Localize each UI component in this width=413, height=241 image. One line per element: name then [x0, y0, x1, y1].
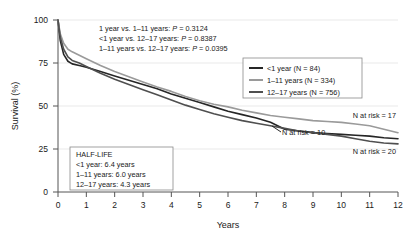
pvalue-text-3: 1–11 years vs. 12–17 years: [99, 44, 192, 53]
x-tick-label: 9 [311, 200, 316, 210]
legend: <1 year (N = 84) 1–11 years (N = 334) 12… [243, 58, 362, 98]
x-tick-label: 11 [365, 200, 374, 210]
y-axis-title: Survival (%) [10, 82, 20, 131]
x-tick-label: 0 [56, 200, 61, 210]
pvalue-text-2: <1 year vs. 12–17 years: [99, 34, 181, 43]
half-life-title: HALF-LIFE [76, 150, 113, 159]
pvalue-line-3: 1–11 years vs. 12–17 years: P = 0.0395 [99, 44, 228, 53]
x-tick-label: 10 [337, 200, 347, 210]
pvalue-line-2: <1 year vs. 12–17 years: P = 0.8387 [99, 34, 217, 43]
y-tick-label: 25 [39, 144, 49, 154]
half-life-box: HALF-LIFE <1 year: 6.4 years 1–11 years:… [70, 147, 173, 190]
legend-label: 12–17 years (N = 756) [267, 88, 340, 97]
x-tick-label: 12 [393, 200, 403, 210]
pvalue-value-2: = 0.8387 [186, 34, 217, 43]
x-tick-label: 2 [112, 200, 117, 210]
y-tick-label: 0 [43, 187, 48, 197]
y-tick-label: 100 [34, 15, 48, 25]
pvalue-line-1: 1 year vs. 1–11 years: P = 0.3124 [99, 24, 208, 33]
chart-svg: 100 75 50 25 0 Survival (%) 0 1 [0, 0, 413, 241]
x-tick-label: 5 [197, 200, 202, 210]
pvalue-text-1: 1 year vs. 1–11 years: [99, 24, 172, 33]
x-tick-label: 8 [282, 200, 287, 210]
x-tick-label: 4 [169, 200, 174, 210]
y-tick-label: 50 [39, 101, 49, 111]
legend-label: 1–11 years (N = 334) [267, 76, 335, 85]
half-life-row: <1 year: 6.4 years [76, 160, 135, 169]
y-tick-label: 75 [39, 58, 49, 68]
x-tick-label: 7 [254, 200, 259, 210]
pvalue-value-3: = 0.0395 [197, 44, 228, 53]
x-tick-label: 1 [84, 200, 89, 210]
half-life-row: 1–11 years: 6.0 years [76, 170, 146, 179]
n-at-risk-label-20: N at risk = 20 [353, 147, 396, 156]
legend-label: <1 year (N = 84) [267, 64, 320, 73]
pvalue-value-1: = 0.3124 [177, 24, 208, 33]
half-life-row: 12–17 years: 4.3 years [76, 180, 151, 189]
x-tick-label: 6 [226, 200, 231, 210]
x-tick-label: 3 [141, 200, 146, 210]
survival-chart-figure: 100 75 50 25 0 Survival (%) 0 1 [0, 0, 413, 241]
n-at-risk-label-17: N at risk = 17 [353, 111, 396, 120]
x-axis-title: Years [217, 220, 240, 230]
n-at-risk-label-10: N at risk = 10 [282, 128, 325, 137]
